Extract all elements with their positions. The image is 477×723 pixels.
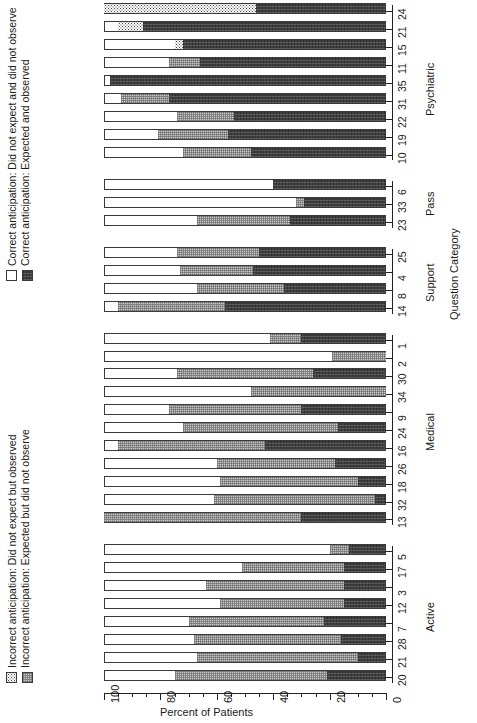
- legend-label: Correct anticipation: Did not expect and…: [6, 7, 18, 266]
- bar-row: [104, 494, 386, 505]
- bar-segment-iedn: [217, 458, 335, 469]
- category-tick-label: 34: [396, 391, 408, 403]
- bar-segment-ceo: [259, 247, 386, 258]
- bar-segment-ceo: [110, 75, 386, 86]
- bar-segment-ceo: [273, 179, 386, 190]
- category-tick-label: 1: [396, 343, 408, 349]
- percent-axis-title: Percent of Patients: [160, 706, 253, 718]
- bar-segment-iedn: [270, 333, 301, 344]
- bar-row: [104, 616, 386, 627]
- bar-segment-iedn: [177, 111, 233, 122]
- category-tick-label: 15: [396, 44, 408, 56]
- bar-segment-cdnd: [104, 93, 121, 104]
- legend-label: Incorrect anticipation: Expected but did…: [19, 429, 31, 668]
- category-tick-label: 26: [396, 463, 408, 475]
- category-tick-label: 33: [396, 202, 408, 214]
- bar-segment-cdnd: [104, 386, 251, 397]
- axis-tick-minor: [132, 693, 133, 697]
- bar-segment-indo: [118, 21, 143, 32]
- bar-row: [104, 215, 386, 226]
- bar-segment-iedn: [169, 57, 200, 68]
- axis-tick-label: 100: [109, 685, 121, 703]
- bar-row: [104, 75, 386, 86]
- bar-row: [104, 476, 386, 487]
- bar-row: [104, 333, 386, 344]
- axis-tick-label: 60: [222, 691, 234, 703]
- axis-tick-minor: [372, 693, 373, 697]
- bar-segment-iedn: [197, 215, 290, 226]
- axis-tick-major: [386, 693, 387, 700]
- bar-segment-iedn: [177, 247, 259, 258]
- axis-tick-major: [273, 693, 274, 700]
- bar-segment-cdnd: [104, 652, 197, 663]
- bar-segment-cdnd: [104, 265, 180, 276]
- axis-tick-minor: [301, 693, 302, 697]
- bar-row: [104, 147, 386, 158]
- category-tick-label: 9: [396, 415, 408, 421]
- bar-segment-cdnd: [104, 494, 214, 505]
- bar-segment-iedn: [175, 670, 327, 681]
- bar-row: [104, 3, 386, 14]
- bar-segment-cdnd: [104, 634, 194, 645]
- axis-tick-label: 80: [165, 691, 177, 703]
- bar-row: [104, 386, 386, 397]
- bar-segment-iedn: [332, 351, 386, 362]
- bar-row: [104, 21, 386, 32]
- bar-segment-ceo: [358, 652, 386, 663]
- bar-segment-ceo: [251, 147, 386, 158]
- bar-segment-iedn: [251, 386, 386, 397]
- bar-segment-cdnd: [104, 544, 330, 555]
- category-group-label: Active: [424, 602, 436, 632]
- category-group-label: Medical: [424, 413, 436, 451]
- bar-segment-cdnd: [104, 111, 177, 122]
- bar-segment-iedn: [220, 476, 358, 487]
- bar-segment-ceo: [313, 368, 386, 379]
- bar-segment-cdnd: [104, 215, 197, 226]
- axis-tick-minor: [316, 693, 317, 697]
- bar-segment-ceo: [349, 544, 386, 555]
- bar-segment-ceo: [290, 215, 386, 226]
- bar-segment-cdnd: [104, 440, 118, 451]
- bar-segment-iedn: [118, 440, 265, 451]
- bar-segment-ceo: [335, 458, 386, 469]
- bar-segment-ceo: [301, 512, 386, 523]
- bar-segment-ceo: [375, 494, 386, 505]
- bar-segment-iedn: [104, 512, 301, 523]
- category-tick-label: 2: [396, 361, 408, 367]
- bar-segment-cdnd: [104, 404, 169, 415]
- axis-tick-label: 40: [278, 691, 290, 703]
- bar-segment-cdnd: [104, 21, 118, 32]
- axis-tick-label: 20: [335, 691, 347, 703]
- category-tick-label: 22: [396, 116, 408, 128]
- bar-row: [104, 404, 386, 415]
- axis-tick-major: [160, 693, 161, 700]
- legend-label: Correct anticipation: Expected and obser…: [19, 59, 31, 266]
- category-group-spine: [392, 249, 393, 314]
- category-tick-label: 21: [396, 656, 408, 668]
- bar-segment-ceo: [358, 476, 386, 487]
- category-tick-label: 11: [396, 63, 408, 74]
- legend-label: Incorrect anticipation: Did not expect b…: [6, 435, 18, 668]
- bar-segment-ceo: [344, 598, 386, 609]
- bar-row: [104, 93, 386, 104]
- category-tick-label: 21: [396, 26, 408, 38]
- bar-segment-cdnd: [104, 39, 175, 50]
- bar-segment-ceo: [324, 616, 386, 627]
- bar-row: [104, 458, 386, 469]
- category-tick-label: 20: [396, 674, 408, 686]
- category-tick-label: 3: [396, 590, 408, 596]
- bar-segment-iedn: [158, 129, 229, 140]
- bar-row: [104, 544, 386, 555]
- bar-row: [104, 129, 386, 140]
- axis-tick-major: [104, 693, 105, 700]
- bar-segment-iedn: [197, 652, 358, 663]
- bar-segment-ceo: [169, 93, 386, 104]
- bar-row: [104, 440, 386, 451]
- axis-tick-label: 0: [391, 697, 403, 703]
- bar-segment-ceo: [265, 440, 386, 451]
- bar-segment-iedn: [242, 562, 344, 573]
- category-tick-label: 19: [396, 134, 408, 146]
- axis-tick-minor: [203, 693, 204, 697]
- bar-row: [104, 580, 386, 591]
- bar-segment-iedn: [121, 93, 169, 104]
